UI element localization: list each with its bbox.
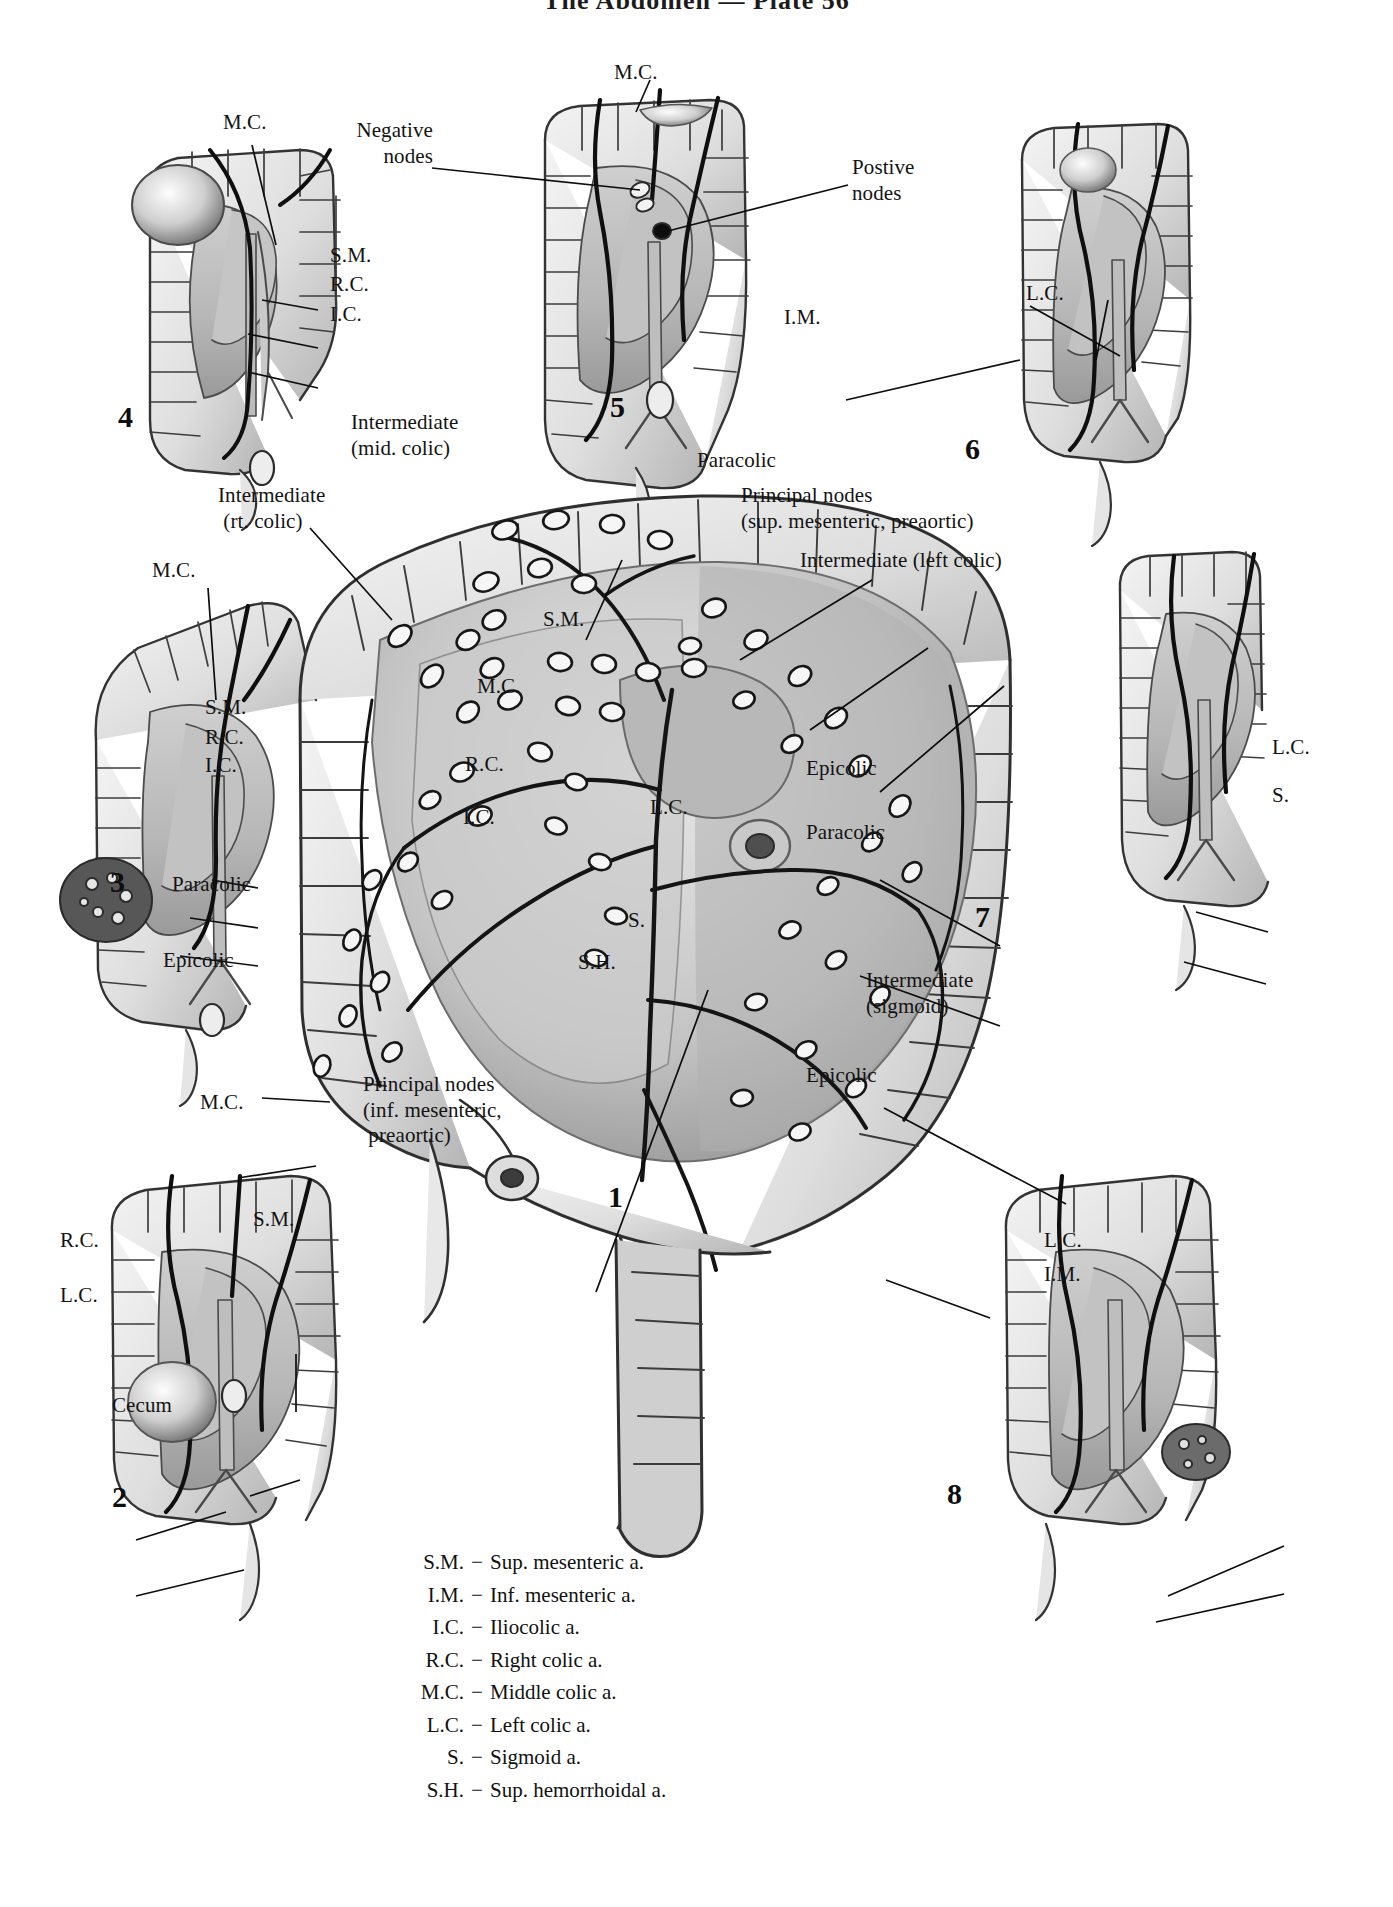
fig1-label-lc: L.C.	[650, 795, 688, 821]
fig2-label-cecum: Cecum	[112, 1393, 172, 1419]
fig3-label-sm: S.M.	[205, 695, 246, 721]
fig2-label-sm: S.M.	[253, 1207, 294, 1233]
fig2-label-rc: R.C.	[60, 1228, 99, 1254]
fig5-label-mc: M.C.	[614, 60, 658, 86]
key-desc: Sup. mesenteric a.	[490, 1552, 700, 1573]
key-abbr: R.C.	[400, 1650, 464, 1671]
fig2-label-mc: M.C.	[200, 1090, 244, 1116]
figure-number-8: 8	[947, 1477, 962, 1511]
fig1-label-epicolic-right: Epicolic	[806, 756, 877, 782]
fig6-label-im: I.M.	[784, 305, 821, 331]
key-dash: −	[464, 1650, 490, 1671]
key-abbr: M.C.	[400, 1682, 464, 1703]
key-desc: Middle colic a.	[490, 1682, 700, 1703]
fig7-label-lc: L.C.	[1272, 735, 1310, 761]
fig1-label-principal-nodes-sup: Principal nodes (sup. mesenteric, preaor…	[741, 483, 974, 534]
fig1-label-paracolic-right: Paracolic	[806, 820, 885, 846]
fig5-label-positive-nodes: Postive nodes	[852, 155, 915, 206]
fig3-label-ic: I.C.	[205, 753, 237, 779]
fig4-label-mc: M.C.	[223, 110, 267, 136]
figure-7-artwork	[1120, 552, 1268, 990]
key-desc: Left colic a.	[490, 1715, 700, 1736]
fig4-label-rc: R.C.	[330, 272, 369, 298]
fig8-label-lc: L.C.	[1044, 1228, 1082, 1254]
figure-4-artwork	[132, 149, 340, 530]
fig1-label-principal-nodes-inf: Principal nodes (inf. mesenteric, preaor…	[363, 1072, 502, 1149]
key-abbr: S.M.	[400, 1552, 464, 1573]
key-dash: −	[464, 1715, 490, 1736]
fig3-label-mc: M.C.	[152, 558, 196, 584]
leader-lines	[136, 80, 1284, 1622]
key-row: S.H. − Sup. hemorrhoidal a.	[400, 1780, 700, 1801]
figure-number-1: 1	[608, 1180, 623, 1214]
fig1-label-intermediate-mid-colic: Intermediate (mid. colic)	[351, 410, 458, 461]
key-row: M.C. − Middle colic a.	[400, 1682, 700, 1703]
fig1-label-intermediate-left-colic: Intermediate (left colic)	[800, 548, 1002, 574]
fig6-label-lc: L.C.	[1026, 281, 1064, 307]
figure-number-4: 4	[118, 400, 133, 434]
fig5-label-negative-nodes: Negative nodes	[318, 118, 433, 169]
figure-number-5: 5	[610, 390, 625, 424]
plate-header: The Abdomen — Plate 56	[0, 0, 1393, 16]
fig3-label-paracolic: Paracolic	[172, 872, 251, 898]
key-abbr: I.C.	[400, 1617, 464, 1638]
fig1-label-s: S.	[628, 908, 645, 934]
fig8-label-im: I.M.	[1044, 1262, 1081, 1288]
figure-number-7: 7	[975, 900, 990, 934]
key-row: I.M. − Inf. mesenteric a.	[400, 1585, 700, 1606]
figure-1-artwork	[300, 496, 1012, 1557]
key-desc: Inf. mesenteric a.	[490, 1585, 700, 1606]
fig1-label-rc: R.C.	[465, 752, 504, 778]
figure-number-3: 3	[110, 865, 125, 899]
fig1-label-epicolic-bottom-right: Epicolic	[806, 1063, 877, 1089]
figure-8-artwork	[1006, 1176, 1230, 1620]
key-abbr: S.	[400, 1747, 464, 1768]
key-dash: −	[464, 1585, 490, 1606]
fig7-label-s: S.	[1272, 783, 1289, 809]
key-row: R.C. − Right colic a.	[400, 1650, 700, 1671]
key-row: I.C. − Iliocolic a.	[400, 1617, 700, 1638]
key-dash: −	[464, 1617, 490, 1638]
illustration-plate: The Abdomen — Plate 56	[0, 0, 1393, 1907]
figure-3-artwork	[60, 602, 316, 1106]
key-dash: −	[464, 1747, 490, 1768]
key-dash: −	[464, 1552, 490, 1573]
key-desc: Right colic a.	[490, 1650, 700, 1671]
key-desc: Sigmoid a.	[490, 1747, 700, 1768]
fig1-label-ic: I.C.	[463, 805, 495, 831]
key-abbr: I.M.	[400, 1585, 464, 1606]
key-abbr: L.C.	[400, 1715, 464, 1736]
key-desc: Iliocolic a.	[490, 1617, 700, 1638]
fig3-label-epicolic: Epicolic	[163, 948, 234, 974]
fig1-label-sm: S.M.	[543, 607, 584, 633]
fig1-label-mc: M.C.	[477, 674, 521, 700]
fig1-label-sh: S.H.	[578, 950, 616, 976]
fig1-label-intermediate-sigmoid: Intermediate (sigmoid)	[866, 968, 973, 1019]
fig1-label-paracolic-top: Paracolic	[697, 448, 776, 474]
abbreviation-key: S.M. − Sup. mesenteric a. I.M. − Inf. me…	[400, 1552, 700, 1812]
figure-number-2: 2	[112, 1480, 127, 1514]
fig4-label-ic: I.C.	[330, 302, 362, 328]
key-abbr: S.H.	[400, 1780, 464, 1801]
fig2-label-lc: L.C.	[60, 1283, 98, 1309]
key-row: S.M. − Sup. mesenteric a.	[400, 1552, 700, 1573]
figure-6-artwork	[1022, 124, 1192, 546]
figure-number-6: 6	[965, 432, 980, 466]
key-row: L.C. − Left colic a.	[400, 1715, 700, 1736]
fig4-label-sm: S.M.	[330, 243, 371, 269]
key-dash: −	[464, 1780, 490, 1801]
key-desc: Sup. hemorrhoidal a.	[490, 1780, 700, 1801]
key-dash: −	[464, 1682, 490, 1703]
fig3-label-intermediate-rt-colic: Intermediate (rt. colic)	[218, 483, 325, 534]
key-row: S. − Sigmoid a.	[400, 1747, 700, 1768]
fig3-label-rc: R.C.	[205, 725, 244, 751]
